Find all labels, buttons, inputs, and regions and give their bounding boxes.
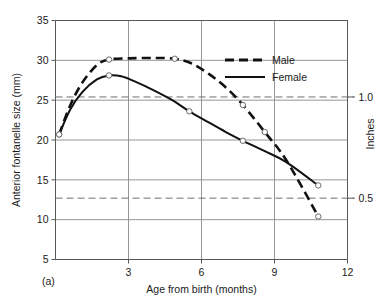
y-axis-tick-label: 10 [37, 213, 49, 225]
y-axis-tick-label: 25 [37, 94, 49, 106]
data-point-female [106, 73, 111, 78]
legend-label-female: Female [272, 71, 307, 83]
y-axis-tick-label: 20 [37, 134, 49, 146]
y2-axis-tick-label: 1.0 [359, 91, 374, 103]
x-axis-tick-label: 6 [199, 266, 205, 278]
data-point-male [240, 102, 245, 107]
data-point-female [316, 183, 321, 188]
series-line-female [59, 75, 318, 185]
data-point-male [172, 56, 177, 61]
data-point-male [262, 129, 267, 134]
data-point-male [316, 214, 321, 219]
panel-label: (a) [42, 275, 55, 287]
legend-label-male: Male [272, 54, 295, 66]
data-point-male [106, 57, 111, 62]
y2-axis-title: Inches [364, 119, 376, 150]
y2-axis-tick-label: 0.5 [359, 192, 374, 204]
data-point-female [56, 132, 61, 137]
x-axis-title: Age from birth (months) [146, 283, 256, 295]
x-axis-tick-label: 9 [272, 266, 278, 278]
x-axis-tick-label: 3 [126, 266, 132, 278]
x-axis-tick-label: 12 [342, 266, 354, 278]
y-axis-tick-label: 5 [43, 253, 49, 265]
y-axis-tick-label: 15 [37, 174, 49, 186]
data-point-female [240, 138, 245, 143]
y-axis-tick-label: 30 [37, 54, 49, 66]
y-axis-tick-label: 35 [37, 14, 49, 26]
data-point-female [187, 109, 192, 114]
fontanelle-size-chart: 5101520253035369121.00.5Anterior fontane… [0, 0, 388, 302]
chart-canvas: 5101520253035369121.00.5Anterior fontane… [0, 0, 388, 302]
y-axis-title: Anterior fontanelle size (mm) [10, 73, 22, 207]
